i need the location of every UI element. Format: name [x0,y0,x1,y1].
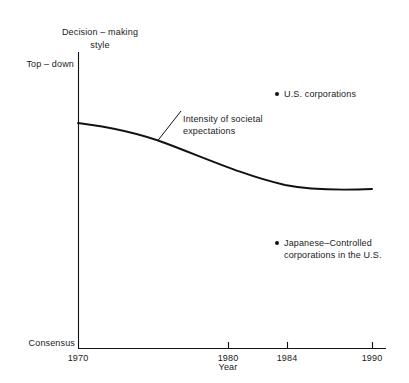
y-axis-title-line-1: Decision – making [62,26,138,39]
y-axis-title: Decision – making style [62,26,138,52]
y-axis-title-line-2: style [62,39,138,52]
legend-item-japanese-controlled-corporations: Japanese–Controlled corporations in the … [275,237,382,261]
legend-label-japanese-controlled-corporations: Japanese–Controlled corporations in the … [284,237,382,261]
legend-item-us-corporations: U.S. corporations [275,88,356,100]
x-tick-label-1970: 1970 [68,352,89,364]
legend-label-us-corporations: U.S. corporations [284,88,356,100]
chart-figure: Decision – making style Top – down Conse… [0,0,409,383]
y-axis-top-label: Top – down [26,58,74,70]
bullet-dot-icon [275,241,279,245]
y-axis-bottom-label: Consensus [29,337,75,349]
bullet-dot-icon [275,92,279,96]
annotation-leader-line [158,111,182,141]
curve-annotation-line-2: expectations [183,125,263,137]
curve-annotation: Intensity of societal expectations [183,113,263,137]
x-axis-title: Year [219,361,238,373]
x-tick-label-1990: 1990 [362,352,383,364]
curve-annotation-line-1: Intensity of societal [183,113,263,125]
x-tick-label-1984: 1984 [277,352,298,364]
